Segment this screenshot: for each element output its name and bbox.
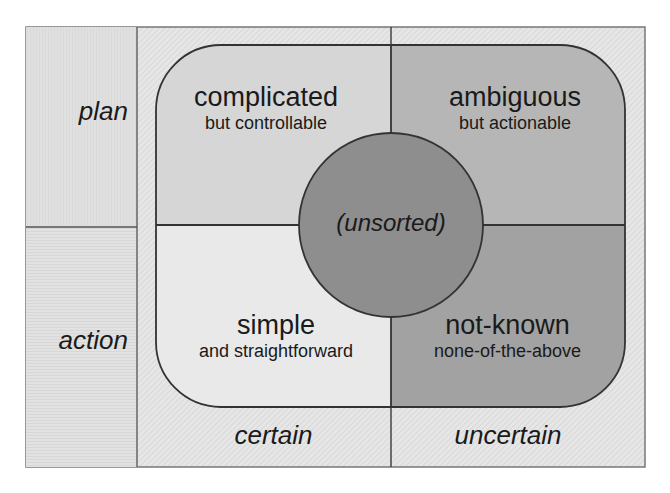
row-label-plan: plan [26, 96, 128, 127]
quadrant-subtitle: but controllable [160, 112, 372, 134]
quadrant-title: complicated [160, 82, 372, 112]
quadrant-complicated: complicated but controllable [160, 82, 372, 134]
quadrant-simple: simple and straightforward [160, 310, 392, 362]
quadrant-subtitle: and straightforward [160, 340, 392, 362]
row-label-action: action [26, 325, 128, 356]
column-label-uncertain: uncertain [391, 420, 625, 451]
quadrant-ambiguous: ambiguous but actionable [410, 82, 620, 134]
quadrant-not-known: not-known none-of-the-above [395, 310, 620, 362]
center-label-unsorted: (unsorted) [299, 209, 483, 237]
quadrant-subtitle: but actionable [410, 112, 620, 134]
quadrant-title: not-known [395, 310, 620, 340]
row-label-cell-plan [26, 27, 137, 227]
quadrant-subtitle: none-of-the-above [395, 340, 620, 362]
quadrant-title: ambiguous [410, 82, 620, 112]
column-label-certain: certain [156, 420, 391, 451]
quadrant-title: simple [160, 310, 392, 340]
